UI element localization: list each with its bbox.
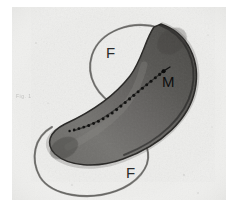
corner-annotation: Fig. 1	[16, 93, 32, 99]
micrograph-image	[12, 7, 226, 200]
label-flagellum-bottom: F	[126, 165, 135, 180]
label-magnetosome: M	[162, 74, 175, 89]
figure-root: F M F Fig. 1	[0, 0, 233, 214]
label-flagellum-top: F	[106, 45, 115, 60]
micrograph-canvas	[12, 7, 226, 200]
